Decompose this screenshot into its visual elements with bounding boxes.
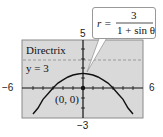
x-max-label: 6 — [149, 83, 155, 93]
directrix-equation: y = 3 — [26, 62, 49, 74]
equation-numerator: 3 — [131, 9, 137, 21]
y-max-label: 5 — [80, 29, 86, 39]
origin-label: (0, 0) — [55, 93, 79, 105]
x-min-label: −6 — [2, 83, 13, 93]
callout-seam — [101, 35, 107, 37]
origin-point — [81, 86, 85, 90]
directrix-title: Directrix — [26, 44, 66, 56]
equation-lhs: r = — [97, 17, 111, 29]
y-min-label: −3 — [77, 121, 88, 131]
equation-denominator: 1 + sin θ — [117, 24, 155, 36]
